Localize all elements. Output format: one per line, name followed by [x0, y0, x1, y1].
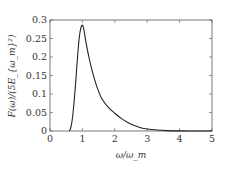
y-axis-label: F(ω)/(5E_{ω_m}²) [7, 34, 18, 118]
y-tick-label: 0.2 [32, 51, 47, 62]
x-tick-label: 5 [209, 133, 215, 144]
y-tick-label: 0.1 [32, 88, 47, 99]
y-tick-label: 0.25 [26, 33, 47, 44]
axes-frame [50, 20, 212, 131]
y-tick-label: 0.3 [32, 14, 47, 25]
x-tick-label: 3 [144, 133, 150, 144]
x-axis-label: ω/ω_m [116, 150, 147, 161]
y-tick-label: 0.15 [26, 70, 47, 81]
chart: 01234500.050.10.150.20.250.3 ω/ω_m F(ω)/… [0, 0, 225, 171]
x-tick-label: 4 [177, 133, 183, 144]
plot-area: 01234500.050.10.150.20.250.3 [26, 14, 215, 144]
x-tick-label: 0 [47, 133, 53, 144]
y-tick-label: 0 [41, 125, 47, 136]
x-tick-label: 2 [112, 133, 118, 144]
x-tick-label: 1 [79, 133, 85, 144]
data-curve [69, 25, 212, 131]
y-tick-label: 0.05 [26, 107, 47, 118]
